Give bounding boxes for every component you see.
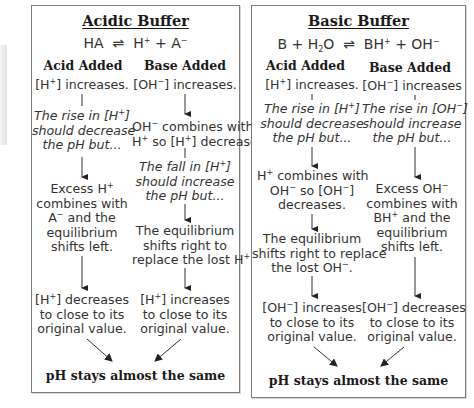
diagonal-arrow-icon [155,339,181,361]
diagonal-arrow-icon [314,347,337,366]
diagonal-arrow-icon [381,347,404,366]
flow-arrows [0,0,474,408]
diagonal-arrow-icon [87,339,112,361]
